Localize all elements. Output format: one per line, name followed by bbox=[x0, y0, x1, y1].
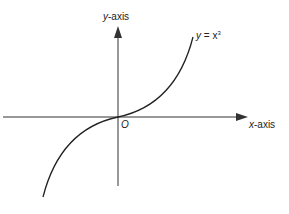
origin-label: O bbox=[121, 119, 129, 130]
y-axis-arrow-icon bbox=[114, 26, 122, 38]
y-axis-label: y-axis bbox=[103, 11, 129, 22]
cubic-graph bbox=[0, 0, 289, 214]
curve-label: y = x3 bbox=[196, 30, 221, 41]
x-axis-arrow-icon bbox=[236, 113, 248, 121]
x-axis-label: x-axis bbox=[249, 119, 275, 130]
